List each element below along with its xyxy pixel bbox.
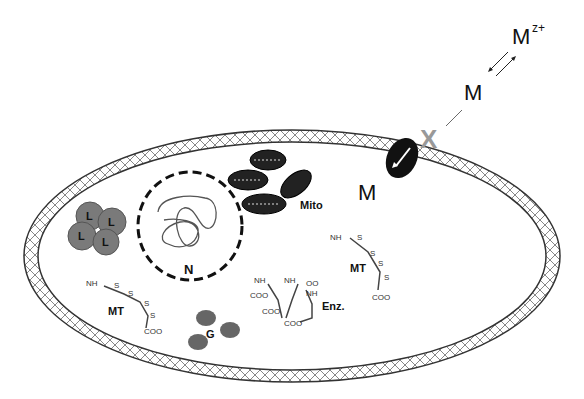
svg-text:L: L <box>86 210 93 222</box>
cell-diagram: N L L L L Mito X M M M z+ NH <box>0 0 584 399</box>
svg-text:S: S <box>144 299 149 308</box>
equilibrium-arrows <box>488 52 516 76</box>
svg-text:S: S <box>128 289 133 298</box>
svg-text:S: S <box>114 281 119 290</box>
svg-text:NH: NH <box>306 289 318 298</box>
svg-text:COO: COO <box>262 307 280 316</box>
svg-text:S: S <box>370 249 375 258</box>
blocked-x: X <box>420 124 438 154</box>
svg-text:L: L <box>78 230 85 242</box>
cell-membrane <box>24 130 560 382</box>
svg-text:Enz.: Enz. <box>322 300 345 312</box>
svg-text:L: L <box>108 216 115 228</box>
svg-text:MT: MT <box>350 262 366 274</box>
svg-text:S: S <box>150 311 155 320</box>
svg-text:OO: OO <box>306 279 318 288</box>
svg-text:S: S <box>384 273 389 282</box>
svg-text:COO: COO <box>284 319 302 328</box>
svg-text:NH: NH <box>86 279 98 288</box>
svg-text:NH: NH <box>254 276 266 285</box>
metal-ion-label: M <box>512 24 530 49</box>
svg-text:S: S <box>357 233 362 242</box>
metal-inside-label: M <box>358 180 376 205</box>
svg-text:NH: NH <box>330 233 342 242</box>
svg-text:G: G <box>206 328 215 340</box>
svg-text:L: L <box>102 236 109 248</box>
nucleus-label: N <box>184 262 193 277</box>
svg-text:COO: COO <box>250 291 268 300</box>
svg-text:COO: COO <box>372 293 390 302</box>
svg-text:MT: MT <box>108 305 124 317</box>
ion-charge: z+ <box>532 21 545 35</box>
svg-text:S: S <box>378 259 383 268</box>
svg-text:COO: COO <box>144 327 162 336</box>
mito-label: Mito <box>300 199 323 211</box>
metal-free-label: M <box>464 80 482 105</box>
svg-text:NH: NH <box>284 276 296 285</box>
